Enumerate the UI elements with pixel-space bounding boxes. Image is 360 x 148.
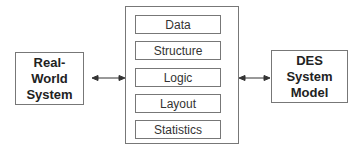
connector-arrows [0, 0, 360, 148]
bidirectional-arrow-icon [92, 76, 125, 81]
bidirectional-arrow-icon [239, 76, 270, 81]
